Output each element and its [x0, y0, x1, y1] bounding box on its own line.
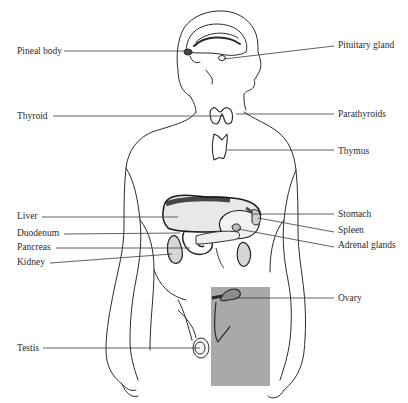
thymus-gland: [213, 134, 228, 160]
label-thyroid: Thyroid: [17, 111, 48, 122]
label-adrenal-glands: Adrenal glands: [338, 240, 396, 251]
body-illustration: [0, 0, 408, 403]
adrenal-gland: [232, 224, 240, 231]
spleen: [252, 210, 261, 225]
label-pancreas: Pancreas: [17, 242, 51, 253]
label-liver: Liver: [17, 211, 38, 222]
label-duodenum: Duodenum: [17, 228, 59, 239]
endocrine-diagram: Pineal body Thyroid Liver Duodenum Pancr…: [0, 0, 408, 403]
kidney-left: [168, 236, 183, 264]
kidney-right: [237, 242, 250, 266]
label-kidney: Kidney: [17, 257, 45, 268]
label-parathyroids: Parathyroids: [338, 109, 386, 120]
abdominal-organs: [163, 195, 261, 268]
label-thymus: Thymus: [338, 146, 369, 157]
label-ovary: Ovary: [338, 293, 362, 304]
label-testis: Testis: [17, 343, 39, 354]
label-pineal-body: Pineal body: [17, 46, 62, 57]
testis: [178, 310, 209, 358]
pancreas: [196, 231, 240, 244]
label-stomach: Stomach: [338, 209, 371, 220]
head-outline: [177, 11, 261, 110]
female-region-box: [211, 287, 270, 386]
label-spleen: Spleen: [338, 225, 364, 236]
brain-outline: [186, 24, 247, 55]
label-pituitary-gland: Pituitary gland: [338, 40, 394, 51]
